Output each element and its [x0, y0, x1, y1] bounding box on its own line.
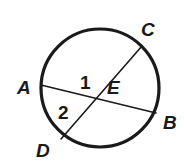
- point-label-b: B: [163, 112, 177, 133]
- geometry-figure: A B C D E 1 2: [0, 0, 184, 166]
- point-label-d: D: [36, 140, 50, 161]
- geometry-diagram: A B C D E 1 2: [0, 0, 184, 166]
- point-label-a: A: [16, 77, 31, 98]
- angle-label-2: 2: [58, 102, 69, 123]
- angle-label-1: 1: [80, 72, 91, 93]
- point-label-e: E: [107, 77, 121, 98]
- point-label-c: C: [141, 19, 155, 40]
